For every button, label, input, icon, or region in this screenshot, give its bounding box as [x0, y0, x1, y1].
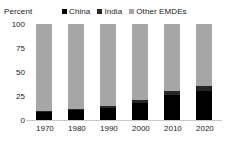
y-axis-tick-25: 25: [16, 92, 25, 101]
bar-2000[interactable]: [132, 24, 148, 120]
legend-item-other-emdes[interactable]: Other EMDEs: [129, 6, 186, 17]
bar-1970[interactable]: [36, 24, 52, 120]
legend-label-china: China: [69, 6, 90, 17]
bar-segment-other-emdes-1980: [68, 24, 84, 109]
legend-label-other-emdes: Other EMDEs: [136, 6, 186, 17]
y-axis-tick-50: 50: [16, 68, 25, 77]
bars-layer: [28, 24, 220, 120]
y-axis-tick-labels: 0255075100: [0, 24, 25, 120]
y-axis-title: Percent: [4, 6, 32, 17]
plot-area: [28, 24, 220, 120]
legend-swatch-india-icon: [97, 9, 102, 14]
bar-segment-other-emdes-1970: [36, 24, 52, 111]
legend-swatch-china-icon: [62, 9, 67, 14]
legend-item-china[interactable]: China: [62, 6, 90, 17]
x-axis-tick-1990: 1990: [100, 123, 116, 134]
legend-label-india: India: [104, 6, 122, 17]
bar-segment-china-1990: [100, 108, 116, 120]
bar-segment-china-1970: [36, 112, 52, 120]
x-axis-tick-2000: 2000: [132, 123, 148, 134]
bar-1980[interactable]: [68, 24, 84, 120]
x-axis-tick-1970: 1970: [36, 123, 52, 134]
stacked-bar-chart: Percent China India Other EMDEs 02550751…: [0, 0, 226, 146]
x-axis-tick-labels: 197019801990200020102020: [28, 123, 220, 135]
bar-segment-other-emdes-2020: [196, 24, 212, 86]
bar-1990[interactable]: [100, 24, 116, 120]
x-axis-tick-2020: 2020: [196, 123, 212, 134]
bar-segment-china-2000: [132, 103, 148, 120]
legend-swatch-other-emdes-icon: [129, 9, 134, 14]
x-axis-line: [26, 120, 222, 121]
bar-segment-other-emdes-1990: [100, 24, 116, 106]
chart-legend: China India Other EMDEs: [62, 6, 187, 17]
bar-segment-other-emdes-2000: [132, 24, 148, 100]
bar-segment-other-emdes-2010: [164, 24, 180, 91]
y-axis-tick-75: 75: [16, 44, 25, 53]
bar-segment-china-2020: [196, 91, 212, 120]
chart-header: Percent China India Other EMDEs: [0, 6, 226, 19]
x-axis-tick-2010: 2010: [164, 123, 180, 134]
bar-segment-china-1980: [68, 110, 84, 120]
x-axis-tick-1980: 1980: [68, 123, 84, 134]
bar-2020[interactable]: [196, 24, 212, 120]
y-axis-tick-100: 100: [12, 20, 25, 29]
y-axis-tick-0: 0: [21, 116, 25, 125]
bar-2010[interactable]: [164, 24, 180, 120]
legend-item-india[interactable]: India: [97, 6, 122, 17]
bar-segment-china-2010: [164, 95, 180, 120]
